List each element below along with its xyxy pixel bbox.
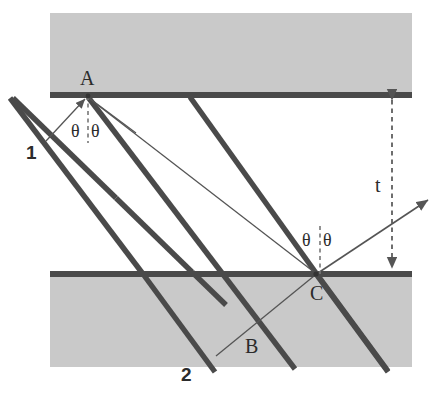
label-point-c: C (310, 283, 323, 303)
label-point-b: B (245, 336, 258, 356)
label-theta-a-right: θ (91, 122, 100, 140)
label-point-a: A (80, 68, 94, 88)
incident-ray-1-thick-lower (116, 198, 192, 272)
top-medium-slab (50, 13, 412, 93)
label-theta-c-left: θ (302, 231, 311, 249)
point-c-dot (313, 271, 318, 276)
label-theta-c-right: θ (323, 231, 332, 249)
ray-3-thick-upper (190, 97, 316, 273)
bottom-interface-bar (50, 271, 412, 277)
diagram-canvas (0, 0, 439, 398)
ray-diagram-figure: A C B 1 2 t θ θ θ θ (0, 0, 439, 398)
point-a-dot (86, 94, 91, 99)
top-interface-bar (50, 92, 412, 98)
label-thickness-t: t (375, 175, 381, 195)
label-ray-2: 2 (181, 365, 192, 384)
bottom-medium-slab (50, 277, 412, 367)
label-theta-a-left: θ (71, 122, 80, 140)
emergent-ray-from-c (318, 200, 428, 273)
label-ray-1: 1 (26, 143, 37, 162)
